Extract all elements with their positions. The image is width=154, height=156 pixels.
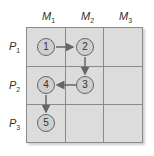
flow-arrows xyxy=(0,0,154,156)
node-5: 5 xyxy=(37,114,55,132)
node-2: 2 xyxy=(76,38,94,56)
node-4: 4 xyxy=(37,76,55,94)
node-1: 1 xyxy=(37,38,55,56)
node-3: 3 xyxy=(76,76,94,94)
